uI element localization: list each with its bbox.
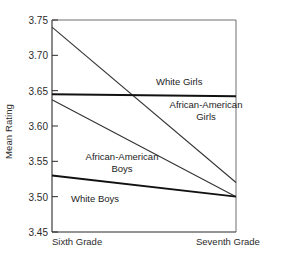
line-chart: Mean Rating 3.45 3.50 3.55 3.60 3.65 3.7… [0, 0, 282, 263]
series-label-aa-boys-line1: African-American [86, 151, 159, 162]
series-line-white-girls [52, 94, 236, 96]
series-label-aa-girls-line2: Girls [196, 111, 216, 122]
series-label-african-american-boys: African-American Boys [74, 151, 170, 174]
plot-area [0, 0, 282, 263]
y-axis-ticks [52, 20, 58, 232]
series-label-aa-girls-line1: African-American [170, 99, 243, 110]
series-label-white-girls: White Girls [156, 76, 202, 88]
series-label-white-boys: White Boys [71, 193, 119, 205]
series-label-african-american-girls: African-American Girls [158, 99, 254, 122]
series-label-aa-boys-line2: Boys [111, 163, 132, 174]
